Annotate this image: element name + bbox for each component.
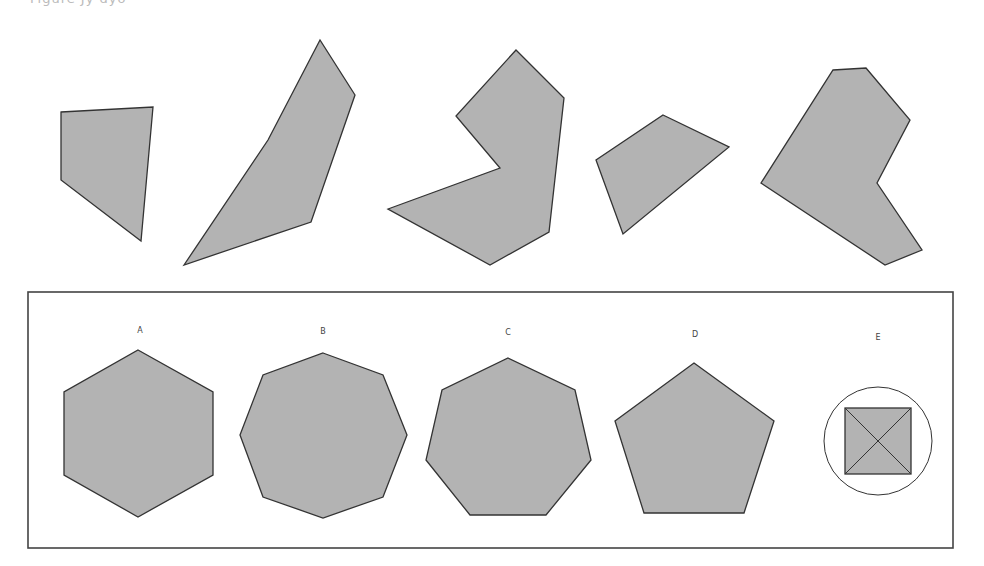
- option-c-heptagon[interactable]: [426, 358, 591, 515]
- option-c-label: C: [505, 328, 511, 337]
- option-a-label: A: [137, 326, 142, 335]
- sequence-shape-3: [388, 50, 564, 265]
- option-d-label: D: [692, 330, 698, 339]
- question-sequence: [61, 40, 922, 265]
- diagram-canvas: [0, 0, 984, 566]
- option-e-square-in-circle[interactable]: [824, 387, 932, 495]
- option-b-octagon[interactable]: [240, 353, 407, 518]
- sequence-shape-5: [761, 68, 922, 265]
- sequence-shape-2: [184, 40, 355, 265]
- sequence-shape-4: [596, 115, 729, 234]
- answer-options: [64, 350, 932, 518]
- option-b-label: B: [320, 327, 326, 336]
- option-a-hexagon[interactable]: [64, 350, 213, 517]
- option-e-label: E: [875, 333, 880, 342]
- option-d-pentagon[interactable]: [615, 363, 774, 513]
- sequence-shape-1: [61, 107, 153, 241]
